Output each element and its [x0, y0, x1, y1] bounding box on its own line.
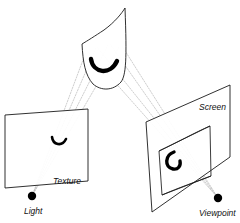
- viewpoint-point: [214, 194, 222, 202]
- screen-label: Screen: [199, 102, 226, 112]
- light-label: Light: [24, 206, 43, 216]
- projective-texture-mapping-diagram: Texture Light Screen Viewpoint: [0, 0, 240, 223]
- texture-label: Texture: [53, 176, 81, 186]
- diagram-root: Texture Light Screen Viewpoint: [0, 0, 240, 223]
- light-point: [28, 192, 36, 200]
- viewpoint-label: Viewpoint: [199, 208, 236, 218]
